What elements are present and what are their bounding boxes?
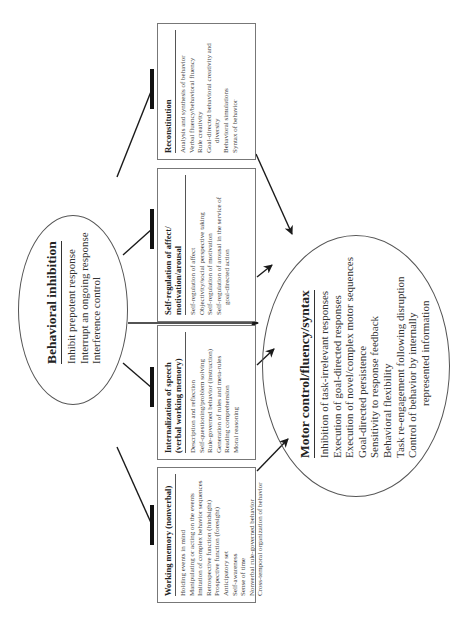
box-item: Rule-governed behavior (instruction) <box>206 332 215 453</box>
box-item: Nonverbal rule-governed behavior <box>248 474 257 596</box>
motor-item: Execution of novel/complex motor sequenc… <box>343 257 356 458</box>
internalization-title-line2: (verbal working memory) <box>173 332 183 453</box>
working-memory-box: Working memory (nonverbal) Holding event… <box>157 467 256 603</box>
motor-control-title: Motor control/fluency/syntax <box>297 290 315 458</box>
internalization-title-line1: Internalization of speech <box>163 332 173 453</box>
inhibition-item: Interrupt an ongoing response <box>78 232 91 364</box>
motor-control-node: Motor control/fluency/syntax Inhibition … <box>262 235 450 497</box>
motor-item: Task re-engagement following disruption <box>394 257 407 458</box>
box-item: Sense of time <box>239 474 248 596</box>
self-regulation-box: Self-regulation of affect/ motivation/ar… <box>157 168 256 322</box>
box-item: Goal-directed behavioral creativity and <box>205 30 214 153</box>
diagram-stage: Behavioral inhibition Inhibit prepotent … <box>0 0 455 617</box>
box-item: Reading comprehension <box>223 332 232 453</box>
box-item: Self-regulation of affect <box>189 175 198 315</box>
box-item: Manipulating or acting on the events <box>188 474 197 596</box>
self-regulation-title-line1: Self-regulation of affect/ <box>163 175 173 315</box>
self-regulation-title: Self-regulation of affect/ motivation/ar… <box>163 175 186 315</box>
box-item: Self-awareness <box>231 474 240 596</box>
box-item: Generation of rules and meta-rules <box>215 332 224 453</box>
box-item: diversity <box>213 30 222 153</box>
self-regulation-title-line2: motivation/arousal <box>173 175 183 315</box>
reconstitution-box: Reconstitution Analysis and synthesis of… <box>157 23 256 160</box>
inhibition-item: Inhibit prepotent response <box>65 232 78 364</box>
internalization-title: Internalization of speech (verbal workin… <box>163 332 186 453</box>
box-item: Prospective function (foresight) <box>213 474 222 596</box>
box-item: Description and reflection <box>189 332 198 453</box>
box-item: Imitation of complex behavior sequences <box>196 474 205 596</box>
inhibition-item: Interference control <box>90 232 103 364</box>
box-item: Rule creativity <box>196 30 205 153</box>
box-item: Self-regulation of arousal in the servic… <box>215 175 224 315</box>
working-memory-title: Working memory (nonverbal) <box>163 474 176 596</box>
motor-item: Inhibition of task-irrelevant responses <box>318 257 331 458</box>
motor-item: represented information <box>419 257 432 458</box>
motor-item: Goal-directed persistence <box>356 257 369 458</box>
box-item: Retrospective function (hindsight) <box>205 474 214 596</box>
behavioral-inhibition-title: Behavioral inhibition <box>44 241 62 364</box>
motor-item: Sensitivity to response feedback <box>368 257 381 458</box>
box-item: Verbal fluency/behavioral fluency <box>188 30 197 153</box>
box-item: Analysis and synthesis of behavior <box>179 30 188 153</box>
reconstitution-title: Reconstitution <box>163 30 176 153</box>
box-item: Behavioral simulations <box>222 30 231 153</box>
box-item: Anticipatory set <box>222 474 231 596</box>
box-item: Self-questioning/problem solving <box>198 332 207 453</box>
behavioral-inhibition-node: Behavioral inhibition Inhibit prepotent … <box>18 215 128 405</box>
internalization-of-speech-box: Internalization of speech (verbal workin… <box>157 325 256 460</box>
box-item: goal-directed action <box>223 175 232 315</box>
motor-item: Behavioral flexibility <box>381 257 394 458</box>
box-item: Cross-temporal organization of behavior <box>256 474 265 596</box>
motor-item: Execution of goal-directed responses <box>331 257 344 458</box>
box-item: Moral reasoning <box>232 332 241 453</box>
motor-item: Control of behavior by internally <box>406 257 419 458</box>
box-item: Objectivity/social perspective taking <box>198 175 207 315</box>
box-item: Self-regulation of motivation <box>206 175 215 315</box>
box-item: Syntax of behavior <box>231 30 240 153</box>
box-item: Holding events in mind <box>179 474 188 596</box>
